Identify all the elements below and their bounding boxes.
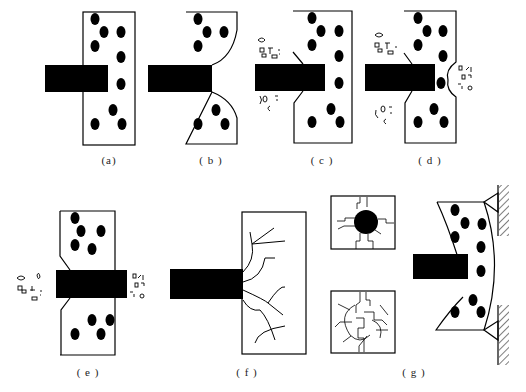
projectile [45, 65, 108, 92]
panel-label-b: ( b ) [199, 154, 222, 166]
figure-canvas [0, 0, 526, 392]
panel-d [365, 11, 472, 143]
rear-debris [130, 274, 144, 298]
panel-c [255, 11, 352, 143]
panel-b [148, 12, 237, 144]
panel-label-f: ( f ) [236, 366, 258, 378]
target-plate-upper [60, 211, 115, 270]
projectile [365, 64, 435, 91]
projectile [148, 65, 212, 92]
panel-label-g: ( g ) [402, 366, 425, 378]
panel-label-a: (a) [101, 154, 116, 166]
panel-label-c: ( c ) [311, 154, 334, 166]
projectile [413, 254, 468, 279]
panel-g-crack-coalescence [331, 291, 395, 353]
panel-e [17, 211, 144, 355]
panel-label-d: ( d ) [418, 154, 441, 166]
panel-label-e: ( e ) [77, 366, 100, 378]
projectile [170, 269, 243, 299]
panel-g-plate-bending [413, 185, 509, 365]
particle [354, 210, 378, 234]
target-plate [242, 212, 306, 354]
front-debris [17, 273, 42, 300]
rear-spall-debris [458, 66, 472, 90]
panel-f [170, 212, 306, 354]
panel-g-particle-crack [331, 196, 395, 249]
panel-a [45, 12, 135, 145]
target-plate-lower [60, 298, 115, 355]
projectile [56, 270, 127, 298]
projectile [255, 64, 325, 91]
